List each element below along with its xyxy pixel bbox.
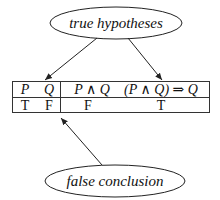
header-q: Q xyxy=(44,82,54,98)
arrow-to-implication xyxy=(128,38,162,80)
false-conclusion-label: false conclusion xyxy=(66,173,163,190)
header-implication: (P ∧ Q) ⇒ Q xyxy=(124,82,198,98)
truth-table: P Q P ∧ Q (P ∧ Q) ⇒ Q T F F T xyxy=(12,81,210,113)
arrow-to-conclusion xyxy=(61,118,102,165)
table-header-row: P Q P ∧ Q (P ∧ Q) ⇒ Q xyxy=(13,82,209,98)
header-p-and-q: P ∧ Q xyxy=(74,82,110,98)
header-p: P xyxy=(21,82,30,98)
cell-implication: T xyxy=(157,98,166,114)
cell-p: T xyxy=(21,98,30,114)
table-row: T F F T xyxy=(13,98,209,114)
cell-q: F xyxy=(45,98,53,114)
true-hypotheses-label: true hypotheses xyxy=(69,15,163,32)
cell-p-and-q: F xyxy=(84,98,92,114)
arrow-to-pq xyxy=(45,38,97,80)
